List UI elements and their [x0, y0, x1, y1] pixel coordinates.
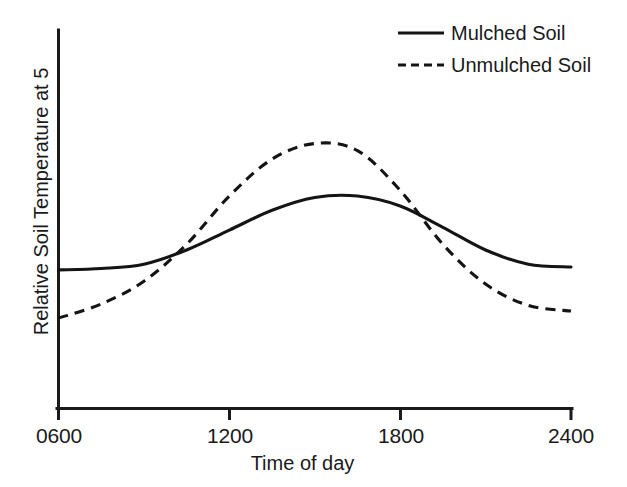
x-axis-title-text: Time of day: [251, 452, 355, 475]
y-axis-title: Relative Soil Temperature at 5: [30, 37, 53, 367]
x-tick-label-1200: 1200: [190, 424, 270, 448]
x-tick-label-2400: 2400: [531, 424, 611, 448]
series-line-unmulched-soil: [59, 143, 572, 318]
x-tick-label-1800: 1800: [361, 424, 441, 448]
legend-label-unmulched-soil: Unmulched Soil: [451, 54, 591, 77]
x-axis-title: Time of day: [0, 452, 627, 475]
soil-temperature-chart: Mulched Soil Unmulched Soil 0600 1200 18…: [0, 0, 627, 487]
legend-label-mulched-soil: Mulched Soil: [451, 22, 566, 45]
x-tick-label-0600: 0600: [19, 424, 99, 448]
series-line-mulched-soil: [59, 195, 572, 270]
